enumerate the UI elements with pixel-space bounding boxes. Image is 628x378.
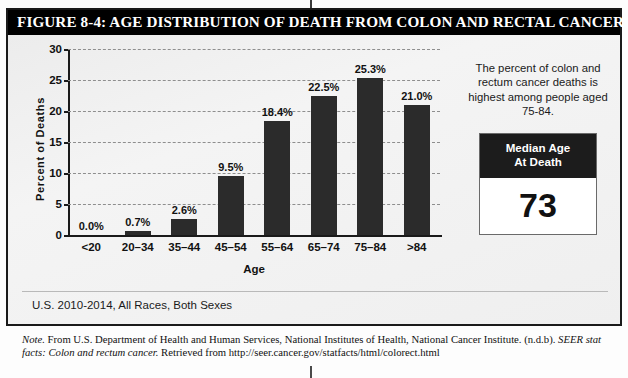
bar-value-label: 0.7% [125,216,150,228]
figure-title: FIGURE 8-4: AGE DISTRIBUTION OF DEATH FR… [17,13,624,31]
subtitle-divider [22,291,608,292]
bar [171,219,197,235]
x-tick-label: 20–34 [122,241,154,253]
bar [218,176,244,235]
side-panel: The percent of colon and rectum cancer d… [460,43,616,235]
y-tick-label: 0 [56,229,62,241]
y-tick-label: 30 [49,43,62,55]
x-tick-label: 35–44 [168,241,200,253]
bar [357,78,383,235]
x-axis-line [68,235,442,237]
figure-container: FIGURE 8-4: AGE DISTRIBUTION OF DEATH FR… [6,8,622,326]
x-tick-label: 55–64 [261,241,293,253]
bar-value-label: 0.0% [79,220,104,232]
median-age-header-line1: Median Age [482,141,594,156]
median-age-header: Median Age At Death [480,134,596,178]
bar [311,96,337,236]
median-age-box: Median Age At Death 73 [479,133,597,235]
bar-group: 0.0%<20 [68,49,115,235]
x-axis-title: Age [68,263,440,275]
figure-page: FIGURE 8-4: AGE DISTRIBUTION OF DEATH FR… [0,0,628,378]
y-axis-title: Percent of Deaths [34,89,46,209]
bar-value-label: 25.3% [355,63,386,75]
bar-value-label: 18.4% [262,106,293,118]
bars-layer: 0.0%<200.7%20–342.6%35–449.5%45–5418.4%5… [68,49,440,235]
median-age-value: 73 [480,178,596,234]
scan-artifact-bottom [310,366,312,378]
bar-group: 25.3%75–84 [347,49,394,235]
bar [125,231,151,235]
callout-text: The percent of colon and rectum cancer d… [460,43,616,119]
figure-title-bar: FIGURE 8-4: AGE DISTRIBUTION OF DEATH FR… [8,10,620,35]
bar-chart: Percent of Deaths Age 051015202530 0.0%<… [8,35,454,290]
plot-area: 051015202530 0.0%<200.7%20–342.6%35–449.… [68,49,440,235]
x-tick-label: 65–74 [308,241,340,253]
bar-value-label: 2.6% [172,204,197,216]
figure-body: Percent of Deaths Age 051015202530 0.0%<… [8,35,620,324]
bar-group: 21.0%>84 [394,49,441,235]
bar-group: 9.5%45–54 [208,49,255,235]
bar [404,105,430,235]
bar-group: 22.5%65–74 [301,49,348,235]
y-tick-label: 25 [49,74,62,86]
note-body-2: Retrieved from http://seer.cancer.gov/st… [158,346,439,358]
y-tick-label: 10 [49,167,62,179]
x-tick-label: >84 [407,241,427,253]
bar-value-label: 9.5% [218,161,243,173]
y-tick-label: 20 [49,105,62,117]
figure-note: Note. From U.S. Department of Health and… [22,333,616,359]
bar [264,121,290,235]
y-tick-mark [64,235,68,237]
figure-subtitle: U.S. 2010-2014, All Races, Both Sexes [32,299,232,311]
note-body-1: From U.S. Department of Health and Human… [45,333,558,345]
bar-value-label: 21.0% [401,90,432,102]
bar-group: 0.7%20–34 [115,49,162,235]
median-age-header-line2: At Death [482,155,594,170]
bar-group: 2.6%35–44 [161,49,208,235]
note-label: Note. [22,333,45,345]
bar-value-label: 22.5% [308,81,339,93]
x-tick-label: <20 [81,241,101,253]
bar-group: 18.4%55–64 [254,49,301,235]
x-tick-label: 45–54 [215,241,247,253]
y-tick-label: 15 [49,136,62,148]
x-tick-label: 75–84 [354,241,386,253]
y-tick-label: 5 [56,198,62,210]
